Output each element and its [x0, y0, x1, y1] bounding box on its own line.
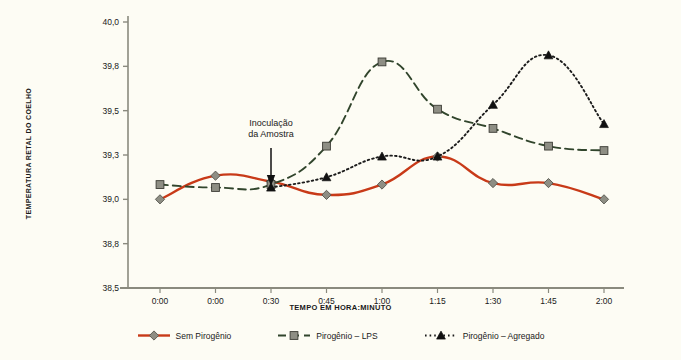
legend-item[interactable]: Pirogênio – LPS	[277, 330, 377, 341]
y-axis-tick-label: 39,8	[102, 61, 119, 71]
data-point-marker-square	[434, 105, 442, 113]
series-line	[160, 156, 604, 199]
data-point-marker-diamond	[211, 171, 220, 180]
legend-label: Sem Pirogênio	[176, 331, 232, 341]
legend-label: Pirogênio – LPS	[316, 331, 377, 341]
data-point-marker-diamond	[377, 180, 386, 189]
x-axis-title: TEMPO EM HORA:MINUTO	[0, 303, 681, 312]
y-axis-tick-label: 38,8	[102, 239, 119, 249]
data-point-marker-diamond	[544, 178, 553, 187]
data-point-marker-diamond	[599, 195, 608, 204]
data-point-marker-square	[156, 181, 164, 189]
legend-swatch-square	[277, 330, 311, 341]
legend-item[interactable]: Sem Pirogênio	[137, 330, 232, 341]
y-axis-tick-label: 39,5	[102, 106, 119, 116]
legend-item[interactable]: Pirogênio – Agregado	[424, 330, 545, 341]
legend-swatch-diamond	[137, 330, 171, 341]
data-point-marker-square	[290, 332, 298, 340]
data-point-marker-square	[600, 147, 608, 155]
chart-legend: Sem PirogênioPirogênio – LPSPirogênio – …	[0, 330, 681, 341]
y-axis-title: TEMPERATURA RETAL DO COELHO	[25, 54, 32, 254]
data-point-marker-triangle	[600, 120, 609, 128]
legend-swatch-triangle	[424, 330, 458, 341]
data-point-marker-diamond	[322, 190, 331, 199]
y-axis-tick-label: 40,0	[102, 17, 119, 27]
y-axis-tick-label: 39,0	[102, 194, 119, 204]
data-point-marker-square	[545, 142, 553, 150]
data-point-marker-square	[489, 125, 497, 133]
chart-container: TEMPERATURA RETAL DO COELHO 40,039,839,5…	[0, 0, 681, 360]
legend-label: Pirogênio – Agregado	[463, 331, 545, 341]
y-axis-tick-label: 38,5	[102, 283, 119, 293]
data-point-marker-square	[212, 184, 220, 192]
inoculation-annotation: Inoculação da Amostra	[211, 118, 331, 141]
data-point-marker-diamond	[155, 195, 164, 204]
data-point-marker-diamond	[488, 178, 497, 187]
annotation-line-2: da Amostra	[211, 129, 331, 140]
annotation-line-1: Inoculação	[211, 118, 331, 129]
data-point-marker-square	[323, 142, 331, 150]
y-axis-tick-label: 39,3	[102, 150, 119, 160]
data-point-marker-square	[378, 58, 386, 66]
data-point-marker-diamond	[149, 331, 158, 340]
